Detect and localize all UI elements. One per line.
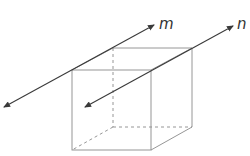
- hidden-edges: [72, 48, 192, 150]
- cube-visible-edges: [72, 48, 192, 150]
- hidden-bottom-depth-edge: [72, 127, 113, 150]
- line-m: m: [4, 15, 174, 107]
- line-m-path: [4, 25, 154, 107]
- line-m-label: m: [159, 15, 174, 33]
- line-n-label: n: [237, 15, 247, 33]
- cube-front-face: [72, 70, 151, 150]
- line-n-path: [85, 26, 233, 107]
- cube-bottom-right-depth-edge: [151, 127, 192, 150]
- cube-diagram: m n: [0, 0, 250, 156]
